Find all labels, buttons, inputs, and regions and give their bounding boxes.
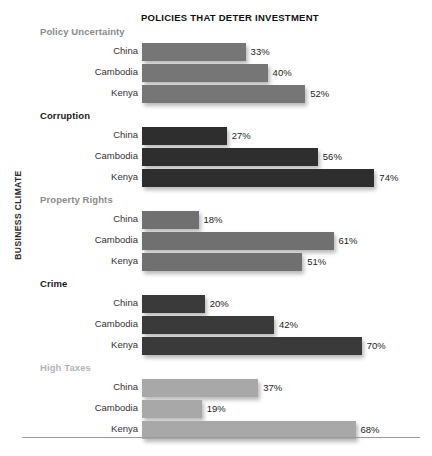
bar-value-label: 37% xyxy=(263,382,282,393)
bar-group: High TaxesChina37%Cambodia19%Kenya68% xyxy=(0,362,432,441)
bar xyxy=(142,148,318,166)
bar-group: Policy UncertaintyChina33%Cambodia40%Ken… xyxy=(0,26,432,105)
bar-category-label: China xyxy=(113,297,138,308)
bar-track: 19% xyxy=(142,400,432,418)
bar xyxy=(142,232,334,250)
bar-row: Kenya52% xyxy=(0,84,432,105)
bar-group-rows: China33%Cambodia40%Kenya52% xyxy=(0,26,432,105)
bar-value-label: 27% xyxy=(232,130,251,141)
bar-track: 52% xyxy=(142,85,432,103)
bar-track: 37% xyxy=(142,379,432,397)
bar-track: 74% xyxy=(142,169,432,187)
bar-value-label: 51% xyxy=(307,256,326,267)
bar-track: 33% xyxy=(142,43,432,61)
bar xyxy=(142,85,305,103)
chart-title: POLICIES THAT DETER INVESTMENT xyxy=(141,12,319,23)
bar-category-label: China xyxy=(113,381,138,392)
bar-group-rows: China20%Cambodia42%Kenya70% xyxy=(0,278,432,357)
bar-category-label: China xyxy=(113,45,138,56)
bar-category-label: Kenya xyxy=(111,171,138,182)
bar-category-label: Kenya xyxy=(111,87,138,98)
bar-track: 18% xyxy=(142,211,432,229)
bar-category-label: Cambodia xyxy=(95,318,138,329)
bar-value-label: 33% xyxy=(251,46,270,57)
bar xyxy=(142,253,302,271)
bar xyxy=(142,211,199,229)
bar-track: 70% xyxy=(142,337,432,355)
bar-value-label: 56% xyxy=(323,151,342,162)
bar-track: 20% xyxy=(142,295,432,313)
bar-track: 51% xyxy=(142,253,432,271)
bar-row: Kenya74% xyxy=(0,168,432,189)
bar-row: Cambodia40% xyxy=(0,63,432,84)
bar-category-label: Kenya xyxy=(111,255,138,266)
bar-row: Cambodia19% xyxy=(0,399,432,420)
bar-category-label: China xyxy=(113,213,138,224)
bar-value-label: 68% xyxy=(361,424,380,435)
bar-group: CorruptionChina27%Cambodia56%Kenya74% xyxy=(0,110,432,189)
bar-row: Cambodia56% xyxy=(0,147,432,168)
bar-group: Property RightsChina18%Cambodia61%Kenya5… xyxy=(0,194,432,273)
bar-value-label: 42% xyxy=(279,319,298,330)
bar-row: China18% xyxy=(0,210,432,231)
bar-group-rows: China27%Cambodia56%Kenya74% xyxy=(0,110,432,189)
bottom-divider xyxy=(22,437,420,438)
bar xyxy=(142,127,227,145)
bar-track: 61% xyxy=(142,232,432,250)
bar-row: China33% xyxy=(0,42,432,63)
bar-category-label: Cambodia xyxy=(95,234,138,245)
bar-row: China37% xyxy=(0,378,432,399)
bar-row: China27% xyxy=(0,126,432,147)
bar-track: 40% xyxy=(142,64,432,82)
bar xyxy=(142,337,362,355)
bar xyxy=(142,316,274,334)
bar-track: 42% xyxy=(142,316,432,334)
bar xyxy=(142,379,258,397)
bar-category-label: Cambodia xyxy=(95,66,138,77)
bar-track: 56% xyxy=(142,148,432,166)
bar-group-rows: China37%Cambodia19%Kenya68% xyxy=(0,362,432,441)
bar-row: Kenya70% xyxy=(0,336,432,357)
bar-category-label: Cambodia xyxy=(95,402,138,413)
bar-group-rows: China18%Cambodia61%Kenya51% xyxy=(0,194,432,273)
bar-category-label: Kenya xyxy=(111,339,138,350)
bar-group: CrimeChina20%Cambodia42%Kenya70% xyxy=(0,278,432,357)
bar-row: Cambodia61% xyxy=(0,231,432,252)
bar-value-label: 20% xyxy=(210,298,229,309)
bar-category-label: China xyxy=(113,129,138,140)
bar-value-label: 52% xyxy=(310,88,329,99)
bar-row: Cambodia42% xyxy=(0,315,432,336)
bar-value-label: 19% xyxy=(207,403,226,414)
bar xyxy=(142,295,205,313)
chart-container: BUSINESS CLIMATE POLICIES THAT DETER INV… xyxy=(0,0,432,456)
bar xyxy=(142,64,268,82)
bar-value-label: 70% xyxy=(367,340,386,351)
bar xyxy=(142,400,202,418)
bar xyxy=(142,43,246,61)
bar-value-label: 40% xyxy=(273,67,292,78)
bar-value-label: 74% xyxy=(379,172,398,183)
bar-track: 27% xyxy=(142,127,432,145)
bar-row: China20% xyxy=(0,294,432,315)
bar-value-label: 18% xyxy=(204,214,223,225)
bar-value-label: 61% xyxy=(339,235,358,246)
bar-category-label: Kenya xyxy=(111,423,138,434)
bar xyxy=(142,169,374,187)
plot-area: Policy UncertaintyChina33%Cambodia40%Ken… xyxy=(0,26,432,446)
bar-row: Kenya51% xyxy=(0,252,432,273)
bar-category-label: Cambodia xyxy=(95,150,138,161)
